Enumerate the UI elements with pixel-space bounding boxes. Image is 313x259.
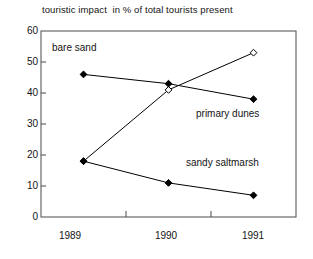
data-point-marker	[165, 80, 172, 87]
plot-area	[0, 0, 313, 259]
data-point-marker	[250, 192, 257, 199]
line-chart: touristic impact in % of total tourists …	[0, 0, 313, 259]
series-primary-dunes	[80, 71, 257, 103]
plot-frame	[41, 31, 296, 217]
data-point-marker	[250, 49, 257, 56]
series-bare-sand	[80, 49, 257, 164]
data-point-marker	[165, 180, 172, 187]
data-point-marker	[250, 96, 257, 103]
series-line	[84, 53, 254, 162]
series-line	[84, 161, 254, 195]
series-sandy-saltmarsh	[80, 158, 257, 199]
data-point-marker	[80, 71, 87, 78]
